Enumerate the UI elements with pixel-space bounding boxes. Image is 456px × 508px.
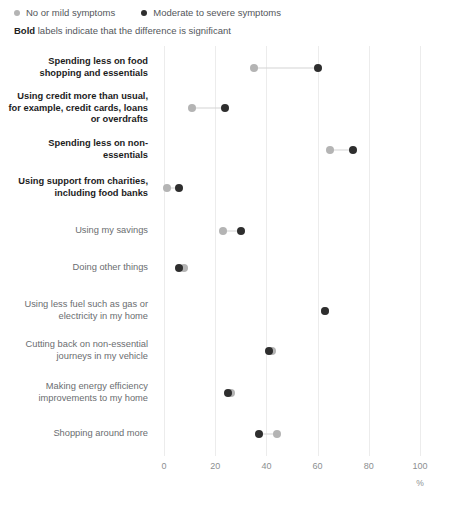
data-point-moderate-to-severe-symptoms xyxy=(321,307,329,315)
dot-plot: Spending less on food shopping and essen… xyxy=(0,46,456,508)
gridline xyxy=(164,46,165,456)
data-point-moderate-to-severe-symptoms xyxy=(314,64,322,72)
x-tick-label: 40 xyxy=(261,461,271,471)
data-point-no-or-mild-symptoms xyxy=(188,104,196,112)
data-point-no-or-mild-symptoms xyxy=(250,64,258,72)
note-text: labels indicate that the difference is s… xyxy=(35,25,231,36)
row-label: Shopping around more xyxy=(8,428,148,440)
data-point-moderate-to-severe-symptoms xyxy=(224,389,232,397)
chart-legend: No or mild symptoms Moderate to severe s… xyxy=(14,7,281,18)
row-label: Using less fuel such as gas or electrici… xyxy=(8,299,148,322)
connector-line xyxy=(254,68,318,69)
row-label: Cutting back on non-essential journeys i… xyxy=(8,339,148,362)
significance-note: Bold labels indicate that the difference… xyxy=(14,25,231,36)
data-point-no-or-mild-symptoms xyxy=(326,146,334,154)
data-point-moderate-to-severe-symptoms xyxy=(255,430,263,438)
row-label: Using credit more than usual, for exampl… xyxy=(8,91,148,126)
axis-unit-label: % xyxy=(416,478,424,488)
data-point-no-or-mild-symptoms xyxy=(219,227,227,235)
legend-item-no-or-mild-symptoms: No or mild symptoms xyxy=(14,7,115,18)
gridline xyxy=(318,46,319,456)
x-tick-label: 100 xyxy=(412,461,427,471)
data-point-moderate-to-severe-symptoms xyxy=(221,104,229,112)
x-tick-label: 80 xyxy=(364,461,374,471)
connector-line xyxy=(192,108,225,109)
x-tick-label: 20 xyxy=(210,461,220,471)
x-axis: % 020406080100 xyxy=(0,456,456,508)
row-label: Spending less on non-essentials xyxy=(8,138,148,161)
gridline xyxy=(369,46,370,456)
note-bold-word: Bold xyxy=(14,25,35,36)
data-point-no-or-mild-symptoms xyxy=(273,430,281,438)
gridline xyxy=(266,46,267,456)
row-label: Making energy efficiency improvements to… xyxy=(8,381,148,404)
x-tick-label: 0 xyxy=(161,461,166,471)
data-point-moderate-to-severe-symptoms xyxy=(237,227,245,235)
row-label: Doing other things xyxy=(8,262,148,274)
data-point-no-or-mild-symptoms xyxy=(163,184,171,192)
gridline xyxy=(420,46,421,456)
dot-icon xyxy=(141,10,147,16)
legend-item-moderate-to-severe-symptoms: Moderate to severe symptoms xyxy=(141,7,281,18)
dot-icon xyxy=(14,10,20,16)
row-label: Spending less on food shopping and essen… xyxy=(8,56,148,79)
data-point-moderate-to-severe-symptoms xyxy=(175,184,183,192)
row-label: Using my savings xyxy=(8,225,148,237)
data-point-moderate-to-severe-symptoms xyxy=(175,264,183,272)
data-point-moderate-to-severe-symptoms xyxy=(265,347,273,355)
data-point-moderate-to-severe-symptoms xyxy=(349,146,357,154)
x-tick-label: 60 xyxy=(313,461,323,471)
row-label: Using support from charities, including … xyxy=(8,176,148,199)
legend-label: Moderate to severe symptoms xyxy=(153,7,281,18)
legend-label: No or mild symptoms xyxy=(26,7,115,18)
